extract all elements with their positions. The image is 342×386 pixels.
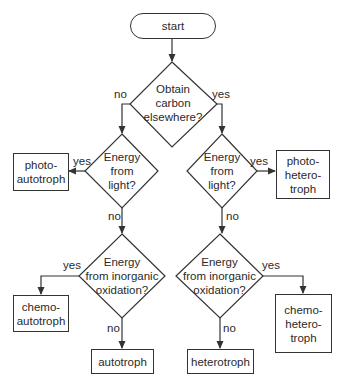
decision-inorganic-right: Energy from inorganic oxidation?: [176, 253, 263, 299]
outcome-photoautotroph-text: photo- autotroph: [17, 158, 66, 186]
start-terminal: start: [130, 13, 216, 39]
edge-label-light-left-no: no: [108, 210, 121, 222]
decision-carbon-text: Obtain carbon elsewhere?: [144, 82, 203, 124]
outcome-heterotroph: heterotroph: [187, 349, 254, 374]
outcome-chemoautotroph-text: chemo- autotroph: [17, 300, 66, 328]
edge-label-inorganic-right-yes: yes: [262, 259, 280, 271]
outcome-chemoheterotroph: chemo- hetero- troph: [275, 294, 332, 353]
decision-light-right: Energy from light?: [187, 148, 257, 194]
outcome-photoheterotroph: photo- hetero- troph: [276, 150, 330, 199]
outcome-chemoautotroph: chemo- autotroph: [13, 295, 69, 332]
edge-label-light-right-no: no: [226, 210, 239, 222]
decision-light-left: Energy from light?: [85, 148, 159, 194]
outcome-photoautotroph: photo- autotroph: [13, 153, 69, 191]
edge-label-carbon-no: no: [114, 88, 127, 100]
decision-inorganic-left: Energy from inorganic oxidation?: [79, 253, 165, 299]
edge-label-carbon-yes: yes: [212, 88, 230, 100]
decision-carbon: Obtain carbon elsewhere?: [130, 80, 216, 126]
decision-inorganic-right-text: Energy from inorganic oxidation?: [183, 255, 256, 297]
decision-inorganic-left-text: Energy from inorganic oxidation?: [86, 255, 159, 297]
edge-label-inorganic-left-yes: yes: [63, 259, 81, 271]
outcome-autotroph: autotroph: [91, 349, 154, 374]
edge-label-inorganic-left-no: no: [107, 322, 120, 334]
outcome-photoheterotroph-text: photo- hetero- troph: [285, 154, 321, 196]
outcome-chemoheterotroph-text: chemo- hetero- troph: [284, 303, 322, 345]
edge-label-inorganic-right-no: no: [223, 322, 236, 334]
decision-light-right-text: Energy from light?: [204, 150, 240, 192]
start-label: start: [162, 19, 184, 33]
edge-label-light-left-yes: yes: [73, 155, 91, 167]
decision-light-left-text: Energy from light?: [104, 150, 140, 192]
outcome-heterotroph-text: heterotroph: [191, 355, 250, 369]
outcome-autotroph-text: autotroph: [98, 355, 147, 369]
edge-label-light-right-yes: yes: [250, 155, 268, 167]
